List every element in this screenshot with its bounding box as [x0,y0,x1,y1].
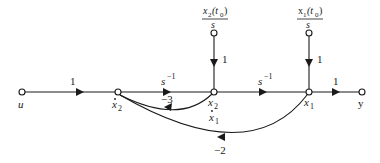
dot-mark [211,110,213,112]
node-ic2 [211,30,217,36]
arrowhead-down-icon [305,59,313,67]
svg-text:s: s [306,19,310,30]
gain-feedback-minus3: −3 [161,93,173,105]
svg-text:−1: −1 [264,72,273,81]
arrowhead-right-icon [259,88,267,96]
node-y [359,89,365,95]
label-x1: x 1 [303,96,314,111]
arrowhead-right-icon [76,88,84,96]
node-x2dot [115,89,121,95]
gain-u-to-x2dot: 1 [70,75,76,87]
gain-x2dot-to-x2: s −1 [161,72,176,87]
arrowhead-down-icon [210,59,218,67]
label-x2: x 2 [207,96,218,111]
svg-text:x: x [208,111,214,123]
svg-text:−1: −1 [167,72,176,81]
svg-text:1: 1 [215,117,219,126]
svg-text:2: 2 [214,102,218,111]
node-ic1 [306,30,312,36]
svg-text:(t: (t [307,5,313,17]
label-ic1-fraction: x 1 (t 0 ) s [297,5,323,30]
label-ic2-fraction: x 2 (t 0 ) s [202,5,228,30]
node-x1 [306,89,312,95]
signal-flow-graph: u x 2 x 2 x 1 x 1 y x 2 (t 0 ) s x 1 (t … [0,0,380,163]
gain-feedback-minus2: −2 [214,144,226,156]
node-u [19,89,25,95]
label-x1dot: x 1 [208,110,219,126]
svg-text:(t: (t [212,5,218,17]
svg-text:x: x [207,96,213,108]
arrowhead-right-icon [332,88,340,96]
svg-text:): ) [224,5,227,17]
svg-text:x: x [303,96,309,108]
svg-text:2: 2 [118,104,122,113]
svg-text:): ) [319,5,322,17]
svg-text:s: s [258,75,262,87]
gain-x2-to-x1: s −1 [258,72,273,87]
gain-ic1-to-x1: 1 [317,53,323,65]
svg-text:x: x [111,98,117,110]
label-x2dot: x 2 [111,98,122,113]
svg-text:s: s [211,19,215,30]
dot-mark [114,98,116,100]
svg-text:s: s [161,75,165,87]
svg-text:1: 1 [310,102,314,111]
label-y: y [358,97,364,109]
node-x2 [211,89,217,95]
gain-ic2-to-x2: 1 [222,53,228,65]
label-u: u [18,98,24,110]
gain-x1-to-y: 1 [333,75,339,87]
arrowhead-left-icon [217,133,225,141]
